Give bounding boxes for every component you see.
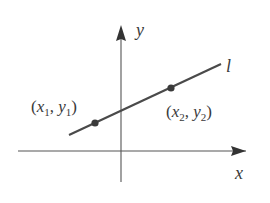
x-axis-arrow-icon [231,146,246,156]
point-2-dot [167,84,174,91]
point-2-label: (x2, y2) [166,102,212,123]
point-1-label: (x1, y1) [31,97,77,118]
coordinate-diagram: y x l (x1, y1) (x2, y2) [0,0,270,203]
line-label: l [226,56,231,76]
y-axis-label: y [134,20,144,40]
point-1-dot [91,119,98,126]
x-axis-label: x [234,163,243,183]
y-axis-arrow-icon [116,25,126,41]
